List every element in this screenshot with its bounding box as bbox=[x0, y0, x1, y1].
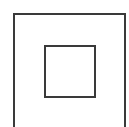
inner-square bbox=[44, 45, 96, 98]
